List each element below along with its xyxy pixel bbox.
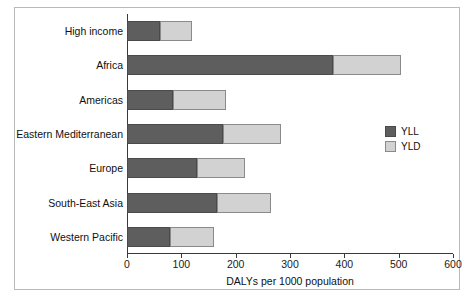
bar-row xyxy=(127,55,453,75)
chart-legend: YLLYLD xyxy=(385,126,420,156)
bar-segment-yll xyxy=(127,55,333,75)
x-axis-tick-label: 0 xyxy=(124,258,130,270)
bar-segment-yll xyxy=(127,124,223,144)
bar-row xyxy=(127,193,453,213)
legend-item: YLL xyxy=(385,126,420,137)
x-axis-tick-label: 100 xyxy=(173,258,191,270)
y-axis-category-label: Africa xyxy=(96,59,123,71)
bar-row xyxy=(127,227,453,247)
bar-segment-yld xyxy=(170,227,213,247)
bar-segment-yll xyxy=(127,227,170,247)
legend-swatch-yld xyxy=(385,141,396,152)
y-axis-category-label: High income xyxy=(65,25,123,37)
x-axis-tick-label: 600 xyxy=(444,258,462,270)
bar-segment-yll xyxy=(127,90,173,110)
bar-row xyxy=(127,158,453,178)
legend-item: YLD xyxy=(385,141,420,152)
bar-segment-yld xyxy=(197,158,245,178)
y-axis-category-label: Eastern Mediterranean xyxy=(16,128,123,140)
bar-row xyxy=(127,90,453,110)
y-axis-category-label: South-East Asia xyxy=(48,197,123,209)
bar-segment-yld xyxy=(217,193,271,213)
x-axis-tick-label: 300 xyxy=(281,258,299,270)
y-axis-category-labels: High incomeAfricaAmericasEastern Mediter… xyxy=(18,14,123,254)
bar-row xyxy=(127,21,453,41)
x-axis-tick-label: 500 xyxy=(390,258,408,270)
bar-segment-yld xyxy=(173,90,226,110)
legend-label: YLD xyxy=(401,141,420,152)
bar-segment-yld xyxy=(223,124,281,144)
bar-segment-yld xyxy=(333,55,401,75)
y-axis-category-label: Western Pacific xyxy=(50,231,123,243)
x-axis-tick-label: 400 xyxy=(336,258,354,270)
x-axis-tick-label: 200 xyxy=(227,258,245,270)
bar-segment-yld xyxy=(160,21,193,41)
y-axis-category-label: Americas xyxy=(79,94,123,106)
bar-segment-yll xyxy=(127,193,217,213)
bar-segment-yll xyxy=(127,158,197,178)
x-axis-title: DALYs per 1000 population xyxy=(127,275,453,287)
bar-segment-yll xyxy=(127,21,160,41)
chart-figure: High incomeAfricaAmericasEastern Mediter… xyxy=(0,0,475,304)
legend-swatch-yll xyxy=(385,126,396,137)
legend-label: YLL xyxy=(401,126,419,137)
y-axis-category-label: Europe xyxy=(89,162,123,174)
